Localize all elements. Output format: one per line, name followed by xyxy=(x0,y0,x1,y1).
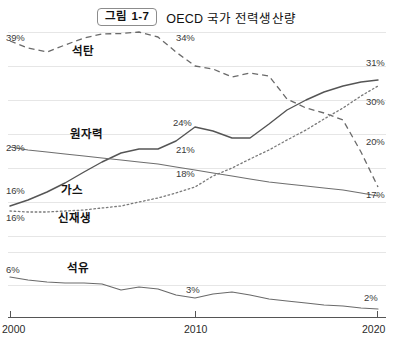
gridlines-top-panel xyxy=(8,33,386,237)
x-tick-label-2020: 2020 xyxy=(362,324,385,335)
x-tick-label-2000: 2000 xyxy=(2,324,25,335)
value-label-nuclear-end: 31% xyxy=(366,58,385,68)
chart-figure: 그림 1-7 OECD 국가 전력생산량 xyxy=(0,0,393,347)
value-label-coal-start: 39% xyxy=(6,33,25,43)
value-label-renewable-mid: 18% xyxy=(176,169,195,179)
series-label-gas: 가스 xyxy=(61,185,83,197)
value-label-gas-start: 16% xyxy=(6,186,25,196)
value-label-oil-end: 2% xyxy=(364,293,378,303)
value-label-nuclear-mid-low: 21% xyxy=(176,145,195,155)
value-label-coal-mid: 34% xyxy=(176,33,195,43)
x-tick-label-2010: 2010 xyxy=(184,324,207,335)
value-label-nuclear-start: 23% xyxy=(6,143,25,153)
value-label-nuclear-mid-high: 24% xyxy=(173,118,192,128)
value-label-coal-end: 20% xyxy=(366,137,385,147)
value-label-renewable-end: 30% xyxy=(366,97,385,107)
value-label-renewable-start: 16% xyxy=(6,213,25,223)
gridlines-bottom-panel xyxy=(8,253,386,286)
series-label-nuclear: 원자력 xyxy=(70,129,104,141)
series-label-renewable: 신재생 xyxy=(58,213,92,225)
x-axis xyxy=(8,311,386,318)
series-label-coal: 석탄 xyxy=(72,46,94,58)
value-label-oil-start: 6% xyxy=(6,265,20,275)
series-line-coal xyxy=(10,32,378,187)
value-label-oil-mid: 3% xyxy=(186,285,200,295)
series-label-oil: 석유 xyxy=(67,263,89,275)
value-label-gas-end: 17% xyxy=(366,190,385,200)
